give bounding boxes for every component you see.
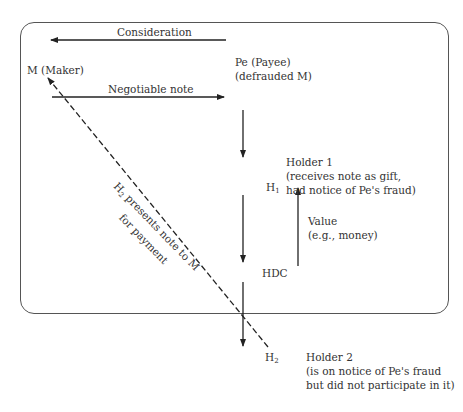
consideration-label: Consideration bbox=[117, 25, 192, 39]
negotiable-note-label: Negotiable note bbox=[108, 82, 193, 96]
holder2-title: Holder 2 bbox=[306, 350, 455, 364]
holder2-annotation: Holder 2 (is on notice of Pe's fraud but… bbox=[306, 350, 455, 392]
holder2-line1: (is on notice of Pe's fraud bbox=[306, 364, 455, 378]
value-title: Value bbox=[308, 214, 378, 228]
holder1-annotation: Holder 1 (receives note as gift, had not… bbox=[286, 155, 416, 197]
h1-node: H1 bbox=[266, 180, 280, 198]
hdc-node: HDC bbox=[262, 266, 288, 280]
holder2-line2: but did not participate in it) bbox=[306, 378, 455, 392]
value-example: (e.g., money) bbox=[308, 228, 378, 242]
h1-letter: H bbox=[266, 181, 275, 193]
holder1-title: Holder 1 bbox=[286, 155, 416, 169]
payee-node: Pe (Payee) (defrauded M) bbox=[235, 55, 312, 83]
payee-name: Pe (Payee) bbox=[235, 55, 312, 69]
holder1-line2: had notice of Pe's fraud) bbox=[286, 183, 416, 197]
h2-node: H2 bbox=[265, 350, 279, 368]
h2-letter: H bbox=[265, 351, 274, 363]
value-label: Value (e.g., money) bbox=[308, 214, 378, 242]
h1-subscript: 1 bbox=[275, 187, 279, 195]
payee-note: (defrauded M) bbox=[235, 69, 312, 83]
holder1-line1: (receives note as gift, bbox=[286, 169, 416, 183]
h2-subscript: 2 bbox=[274, 357, 278, 365]
presentment-dashed-arrow bbox=[48, 78, 268, 347]
maker-node: M (Maker) bbox=[27, 63, 84, 77]
